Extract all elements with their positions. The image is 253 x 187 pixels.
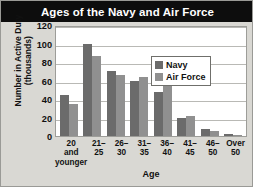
y-tick-label: 20 xyxy=(42,114,52,124)
x-tick-label: 46– 50 xyxy=(201,139,224,167)
y-tick-label: 40 xyxy=(42,95,52,105)
legend-label: Air Force xyxy=(166,72,206,82)
legend-label: Navy xyxy=(166,60,188,70)
x-tick-label: 36– 40 xyxy=(156,139,179,167)
y-tick-label: 0 xyxy=(47,132,52,142)
bar-navy xyxy=(201,129,210,136)
y-axis-tick-labels: 020406080100120 xyxy=(28,26,52,137)
x-tick-label: 41– 45 xyxy=(179,139,202,167)
bar-navy xyxy=(130,81,139,136)
x-axis-tick-labels: 20 and younger21– 2526– 3031– 3536– 4041… xyxy=(55,139,247,167)
bar-air-force xyxy=(186,116,195,136)
bar-air-force xyxy=(210,131,219,136)
legend-item: Navy xyxy=(155,59,206,71)
bar-group xyxy=(104,27,128,136)
x-tick-label: 31– 35 xyxy=(133,139,156,167)
x-tick-label: 26– 30 xyxy=(110,139,133,167)
chart-legend: NavyAir Force xyxy=(151,56,211,86)
bar-navy xyxy=(60,95,69,136)
legend-item: Air Force xyxy=(155,71,206,83)
bar-air-force xyxy=(92,56,101,136)
bar-air-force xyxy=(163,80,172,136)
bar-air-force xyxy=(116,75,125,136)
bar-group xyxy=(57,27,81,136)
bar-navy xyxy=(177,118,186,136)
chart-title: Ages of the Navy and Air Force xyxy=(41,6,214,18)
chart-figure: Ages of the Navy and Air Force Number in… xyxy=(0,0,253,187)
legend-swatch-icon xyxy=(155,61,163,69)
bar-group xyxy=(222,27,246,136)
y-tick-label: 100 xyxy=(37,40,52,50)
bar-navy xyxy=(224,134,233,136)
bar-air-force xyxy=(69,104,78,136)
x-tick-label: 21– 25 xyxy=(87,139,110,167)
bar-navy xyxy=(107,71,116,136)
legend-swatch-icon xyxy=(155,73,163,81)
bar-group xyxy=(128,27,152,136)
y-tick-label: 120 xyxy=(37,21,52,31)
bar-air-force xyxy=(139,77,148,136)
chart-title-band: Ages of the Navy and Air Force xyxy=(1,1,253,22)
x-tick-label: Over 50 xyxy=(224,139,247,167)
x-axis-label: Age xyxy=(55,169,247,179)
y-tick-label: 80 xyxy=(42,58,52,68)
bar-navy xyxy=(154,92,163,136)
bar-group xyxy=(81,27,105,136)
x-tick-label: 20 and younger xyxy=(55,139,87,167)
bar-air-force xyxy=(233,135,242,136)
y-tick-label: 60 xyxy=(42,77,52,87)
bar-navy xyxy=(83,44,92,137)
